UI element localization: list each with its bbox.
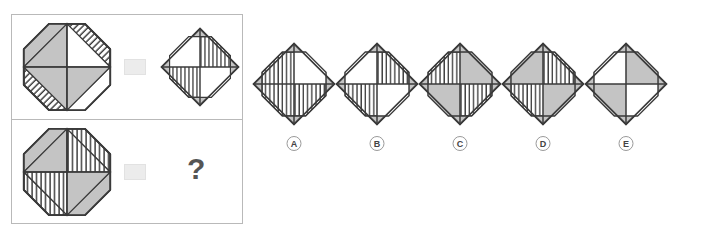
option-b-figure	[335, 38, 419, 130]
example-source-figure	[22, 22, 112, 112]
question-source-figure	[22, 127, 112, 217]
option-a-label: A	[287, 136, 302, 151]
option-b[interactable]: B	[335, 38, 419, 168]
option-c-label: C	[453, 136, 468, 151]
answer-options: A	[252, 38, 716, 168]
puzzle-root: ?	[0, 0, 720, 236]
option-d-figure	[501, 38, 585, 130]
diamond-octagon-svg	[160, 27, 240, 107]
option-c-figure	[418, 38, 502, 130]
option-e-label: E	[619, 136, 634, 151]
octagon-diamond-svg-2	[22, 127, 112, 217]
example-result-figure	[160, 27, 240, 107]
option-a[interactable]: A	[252, 38, 336, 168]
operator-box-example	[124, 59, 146, 75]
option-c[interactable]: C	[418, 38, 502, 168]
question-mark: ?	[187, 154, 205, 184]
option-e[interactable]: E	[584, 38, 668, 168]
option-a-figure	[252, 38, 336, 130]
option-b-label: B	[370, 136, 385, 151]
stimulus-panel: ?	[11, 14, 243, 224]
octagon-diamond-svg	[22, 22, 112, 112]
option-d-label: D	[536, 136, 551, 151]
question-row: ?	[12, 120, 242, 225]
operator-box-question	[124, 164, 146, 180]
example-row	[12, 15, 242, 120]
option-e-figure	[584, 38, 668, 130]
option-d[interactable]: D	[501, 38, 585, 168]
